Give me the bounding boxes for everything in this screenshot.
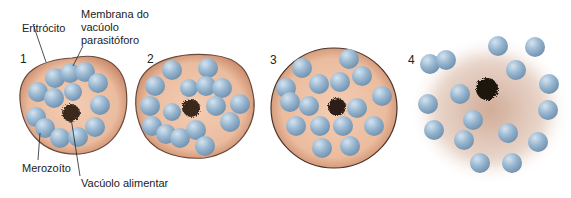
stage-1-erythrocyte <box>20 56 127 154</box>
food-vacuole-4 <box>475 77 497 99</box>
label-merozoito: Merozoíto <box>22 162 71 175</box>
label-membrana-line3: parasitóforo <box>81 34 139 47</box>
label-eritrocito: Eritrócito <box>22 22 65 35</box>
food-vacuole-2 <box>181 98 199 116</box>
stage-number-2: 2 <box>147 52 154 66</box>
label-vacuolo-alimentar: Vacúolo alimentar <box>81 177 168 190</box>
stage-number-4: 4 <box>408 53 415 67</box>
label-membrana-line1: Membrana do <box>81 8 149 21</box>
stage-3-erythrocyte <box>271 48 397 168</box>
stage-4-ruptured-cell <box>412 36 568 182</box>
stage-2-erythrocyte <box>136 54 254 158</box>
stage-number-1: 1 <box>20 52 27 66</box>
food-vacuole-3 <box>327 97 345 115</box>
stage-number-3: 3 <box>270 53 277 67</box>
label-membrana-line2: vacúolo <box>81 21 119 34</box>
food-vacuole-1 <box>61 103 79 121</box>
